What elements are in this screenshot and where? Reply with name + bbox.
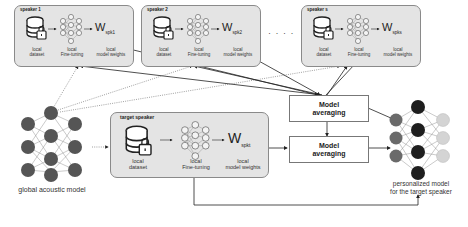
personalized-model-caption: personalized model for the target speake… (376, 180, 466, 196)
